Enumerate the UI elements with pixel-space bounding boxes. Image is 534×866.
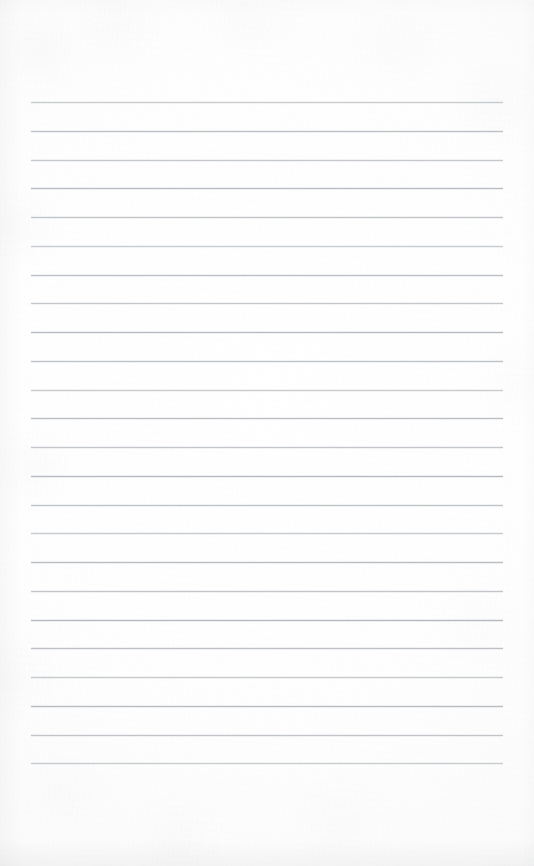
rule-line bbox=[31, 102, 503, 103]
ruled-lines-group bbox=[0, 0, 534, 866]
rule-line bbox=[31, 735, 503, 736]
notebook-page bbox=[0, 0, 534, 866]
rule-line bbox=[31, 476, 503, 477]
rule-line bbox=[31, 706, 503, 707]
rule-line bbox=[31, 418, 503, 419]
rule-line bbox=[31, 390, 503, 391]
rule-line bbox=[31, 275, 503, 276]
rule-line bbox=[31, 562, 503, 563]
rule-line bbox=[31, 188, 503, 189]
rule-line bbox=[31, 648, 503, 649]
rule-line bbox=[31, 505, 503, 506]
rule-line bbox=[31, 677, 503, 678]
rule-line bbox=[31, 447, 503, 448]
rule-line bbox=[31, 217, 503, 218]
rule-line bbox=[31, 131, 503, 132]
rule-line bbox=[31, 533, 503, 534]
rule-line bbox=[31, 332, 503, 333]
rule-line bbox=[31, 361, 503, 362]
rule-line bbox=[31, 303, 503, 304]
rule-line bbox=[31, 763, 503, 764]
rule-line bbox=[31, 620, 503, 621]
rule-line bbox=[31, 160, 503, 161]
rule-line bbox=[31, 246, 503, 247]
rule-line bbox=[31, 591, 503, 592]
